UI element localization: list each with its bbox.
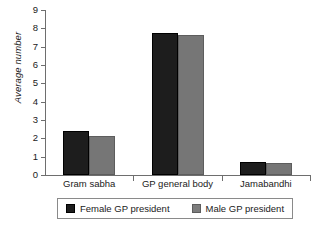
x-category-label: Jamabandhi — [222, 178, 310, 189]
x-category-label: Gram sabha — [45, 178, 133, 189]
y-tick-mark — [41, 175, 45, 176]
legend-swatch-female-icon — [66, 204, 75, 213]
y-tick-label: 7 — [23, 42, 38, 52]
legend-label-male: Male GP president — [206, 203, 285, 214]
bar-male — [178, 35, 204, 175]
x-tick-mark — [310, 176, 311, 181]
y-tick-label: 1 — [23, 152, 38, 162]
y-axis-line — [45, 10, 46, 176]
y-tick-label: 4 — [23, 97, 38, 107]
y-tick-label: 8 — [23, 23, 38, 33]
chart-legend: Female GP president Male GP president — [57, 198, 293, 219]
legend-swatch-male-icon — [192, 204, 201, 213]
bar-female — [240, 162, 266, 175]
legend-entry-female: Female GP president — [66, 203, 170, 214]
y-tick-mark — [41, 65, 45, 66]
x-axis-line — [45, 175, 311, 176]
y-tick-mark — [41, 47, 45, 48]
plot-area: 0123456789 — [45, 10, 310, 175]
bar-male — [89, 136, 115, 175]
legend-label-female: Female GP president — [80, 203, 170, 214]
y-tick-mark — [41, 120, 45, 121]
x-category-label: GP general body — [133, 178, 221, 189]
y-tick-label: 6 — [23, 60, 38, 70]
y-tick-label: 2 — [23, 133, 38, 143]
y-axis-title: Average number — [12, 8, 23, 128]
y-tick-label: 3 — [23, 115, 38, 125]
bar-female — [63, 131, 89, 175]
y-tick-mark — [41, 138, 45, 139]
y-tick-label: 9 — [23, 5, 38, 15]
y-tick-mark — [41, 157, 45, 158]
y-tick-label: 0 — [23, 170, 38, 180]
y-tick-mark — [41, 83, 45, 84]
bar-male — [266, 163, 292, 175]
bar-chart: Average number 0123456789 Gram sabhaGP g… — [0, 0, 327, 229]
y-tick-mark — [41, 28, 45, 29]
y-tick-mark — [41, 10, 45, 11]
y-tick-label: 5 — [23, 78, 38, 88]
bar-female — [152, 33, 178, 175]
legend-entry-male: Male GP president — [192, 203, 285, 214]
y-tick-mark — [41, 102, 45, 103]
